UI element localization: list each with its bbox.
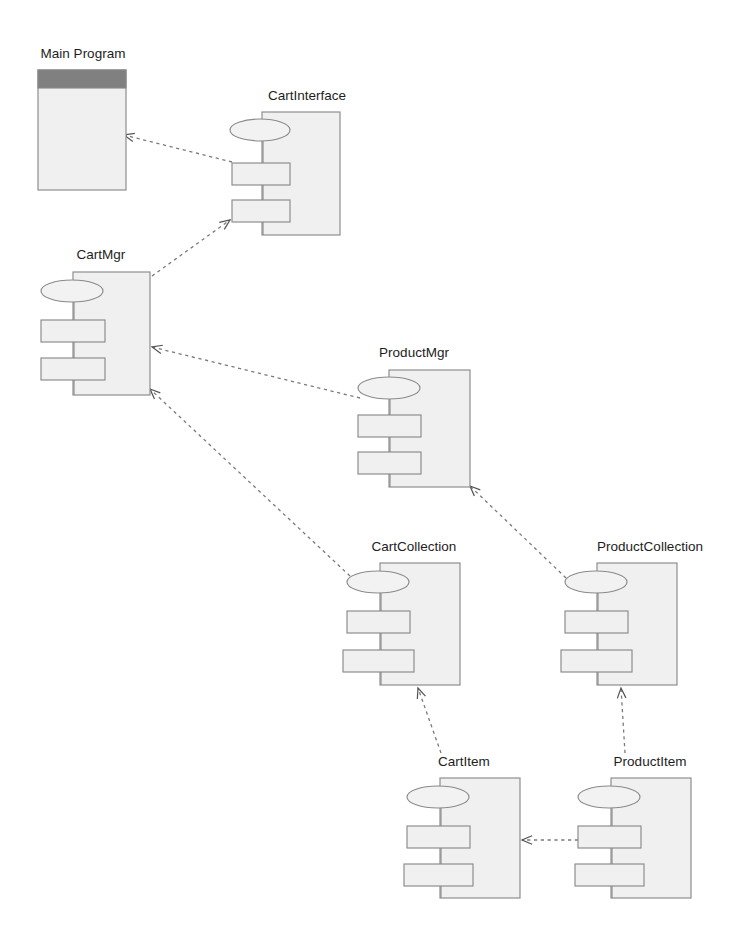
provided-interface-ellipse (347, 571, 409, 593)
component-label: CartMgr (77, 247, 126, 262)
diagram-canvas: Main ProgramCartInterfaceCartMgrProductM… (0, 0, 743, 941)
component-tab-lower (404, 864, 473, 886)
component-tab-upper (578, 826, 641, 848)
component-label: CartInterface (268, 88, 346, 103)
provided-interface-ellipse (578, 786, 640, 808)
provided-interface-ellipse (407, 786, 469, 808)
component-label: CartCollection (372, 539, 457, 554)
component-tab-lower (358, 452, 421, 474)
component-tab-upper (347, 611, 410, 633)
component-tab-upper (407, 826, 470, 848)
component-tab-lower (232, 200, 290, 222)
component-tab-lower (575, 864, 644, 886)
component-tab-lower (41, 358, 105, 380)
component-tab-upper (565, 611, 628, 633)
component-header-bar (38, 70, 126, 88)
component-tab-upper (358, 415, 421, 437)
uml-component-diagram: Main ProgramCartInterfaceCartMgrProductM… (0, 0, 743, 941)
provided-interface-ellipse (230, 119, 290, 141)
component-label: ProductCollection (597, 539, 703, 554)
component-tab-lower (343, 650, 414, 672)
component-label: CartItem (438, 754, 490, 769)
provided-interface-ellipse (565, 571, 627, 593)
provided-interface-ellipse (41, 280, 103, 302)
component-tab-upper (41, 320, 105, 342)
component-label: ProductMgr (379, 345, 449, 360)
provided-interface-ellipse (358, 377, 420, 399)
component-tab-upper (232, 163, 290, 185)
component-label: Main Program (41, 46, 126, 61)
component-label: ProductItem (614, 754, 687, 769)
component-tab-lower (561, 650, 632, 672)
